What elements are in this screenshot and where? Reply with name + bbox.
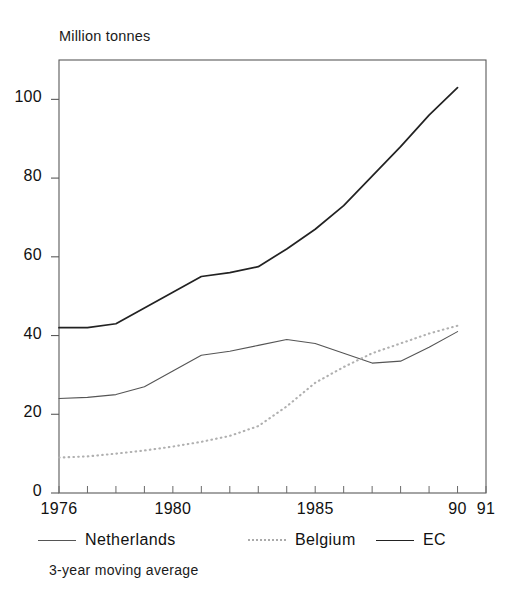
y-tick-label: 0 [0, 482, 42, 500]
chart-root: Million tonnes 020406080100 197619801985… [0, 0, 526, 607]
legend-item-netherlands[interactable]: Netherlands [38, 528, 176, 552]
data-series-group [59, 88, 458, 458]
y-tick-label: 40 [0, 325, 42, 343]
x-tick-label: 91 [446, 500, 526, 518]
y-tick-label: 100 [0, 88, 42, 106]
y-tick-label: 80 [0, 167, 42, 185]
plot-area: 020406080100 1976198019859091 [0, 0, 526, 607]
legend-label: EC [423, 531, 446, 549]
legend-swatch-icon [376, 540, 414, 541]
chart-footnote: 3-year moving average [49, 562, 199, 578]
series-line-netherlands [59, 332, 458, 399]
y-tick-label: 20 [0, 403, 42, 421]
legend-label: Belgium [295, 531, 356, 549]
legend-item-belgium[interactable]: Belgium [248, 528, 356, 552]
x-tick-label: 1985 [275, 500, 355, 518]
y-axis-ticks [51, 99, 59, 493]
x-axis-ticks [59, 486, 486, 493]
chart-legend: NetherlandsBelgiumEC [38, 528, 478, 552]
legend-item-ec[interactable]: EC [376, 528, 446, 552]
legend-swatch-icon [248, 539, 286, 541]
plot-frame [59, 60, 486, 493]
legend-label: Netherlands [85, 531, 176, 549]
x-tick-label: 1980 [133, 500, 213, 518]
series-line-ec [59, 88, 458, 328]
legend-swatch-icon [38, 540, 76, 541]
x-tick-label: 1976 [19, 500, 99, 518]
y-tick-label: 60 [0, 246, 42, 264]
